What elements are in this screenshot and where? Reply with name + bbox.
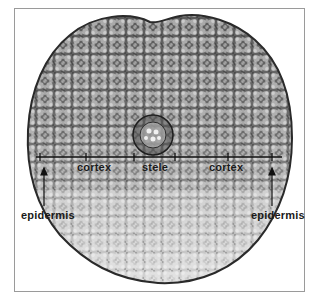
label-cortex-right: cortex (209, 162, 243, 173)
stele-structure (133, 115, 173, 155)
label-cortex-left: cortex (77, 162, 111, 173)
label-epidermis-right: epidermis (251, 210, 305, 221)
label-stele: stele (142, 162, 168, 173)
label-epidermis-left: epidermis (21, 210, 75, 221)
root-cross-section-image (0, 0, 318, 300)
